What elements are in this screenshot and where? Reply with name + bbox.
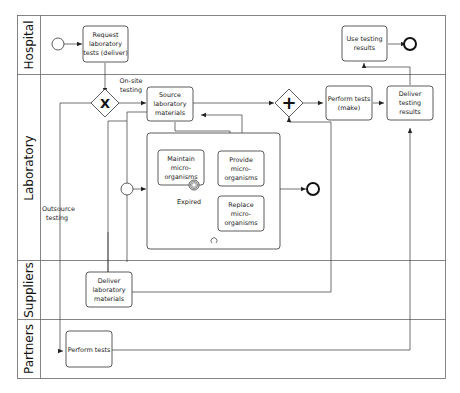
svg-text:+: + xyxy=(281,92,296,113)
svg-text:Source: Source xyxy=(159,91,181,99)
svg-text:Perform tests: Perform tests xyxy=(328,95,371,103)
task-source-laboratory-materials: Source laboratory materials xyxy=(147,87,193,121)
svg-text:Deliver: Deliver xyxy=(399,90,422,98)
outsource-testing-label-2: testing xyxy=(46,214,68,222)
task-use-testing-results: Use testing results xyxy=(342,26,387,61)
svg-text:Perform tests: Perform tests xyxy=(68,346,111,354)
lane-label-suppliers: Suppliers xyxy=(22,262,36,318)
task-deliver-laboratory-materials: Deliver laboratory materials xyxy=(86,272,132,307)
task-request-laboratory-tests: Request laboratory tests (deliver) xyxy=(83,26,128,62)
lane-label-partners: Partners xyxy=(22,324,36,374)
svg-text:Replace: Replace xyxy=(228,201,253,209)
start-event-hospital xyxy=(52,38,64,50)
svg-text:organisms: organisms xyxy=(224,174,258,182)
svg-text:laboratory: laboratory xyxy=(153,100,186,108)
task-perform-tests-make: Perform tests (make) xyxy=(326,86,372,120)
start-event-subprocess xyxy=(121,183,133,195)
svg-text:(make): (make) xyxy=(338,104,361,112)
svg-text:micro-: micro- xyxy=(231,165,251,173)
bpmn-diagram-root: Hospital Laboratory Suppliers Partners xyxy=(0,0,460,393)
timer-boundary-event xyxy=(189,180,199,190)
svg-text:tests (deliver): tests (deliver) xyxy=(83,49,128,57)
lane-label-hospital: Hospital xyxy=(22,21,36,70)
task-replace-micro-organisms: Replace micro- organisms xyxy=(218,196,264,231)
svg-text:results: results xyxy=(399,108,421,116)
svg-text:organisms: organisms xyxy=(224,219,258,227)
end-event-laboratory xyxy=(307,183,319,195)
svg-text:results: results xyxy=(354,44,376,52)
svg-text:Deliver: Deliver xyxy=(98,277,121,285)
svg-text:testing: testing xyxy=(399,99,421,107)
svg-text:laboratory: laboratory xyxy=(92,286,125,294)
svg-text:X: X xyxy=(100,96,110,111)
svg-text:Maintain: Maintain xyxy=(167,155,195,163)
task-maintain-micro-organisms: Maintain micro- organisms xyxy=(158,150,204,185)
onsite-testing-label-2: testing xyxy=(120,86,142,94)
onsite-testing-label: On-site xyxy=(120,77,143,85)
svg-text:Request: Request xyxy=(93,31,119,39)
task-deliver-testing-results: Deliver testing results xyxy=(387,86,433,120)
lane-label-laboratory: Laboratory xyxy=(22,135,36,200)
task-provide-micro-organisms: Provide micro- organisms xyxy=(218,151,264,186)
svg-text:Provide: Provide xyxy=(229,156,253,164)
svg-text:materials: materials xyxy=(155,109,186,117)
end-event-hospital xyxy=(404,38,416,50)
outsource-testing-label: Outsource xyxy=(42,205,75,213)
svg-text:materials: materials xyxy=(94,295,125,303)
svg-text:micro-: micro- xyxy=(231,210,251,218)
expired-label: Expired xyxy=(177,198,201,206)
svg-text:micro-: micro- xyxy=(171,164,191,172)
svg-text:laboratory: laboratory xyxy=(89,40,122,48)
task-perform-tests-partner: Perform tests xyxy=(66,331,112,367)
svg-text:Use testing: Use testing xyxy=(346,35,382,43)
clock-icon xyxy=(192,183,197,188)
